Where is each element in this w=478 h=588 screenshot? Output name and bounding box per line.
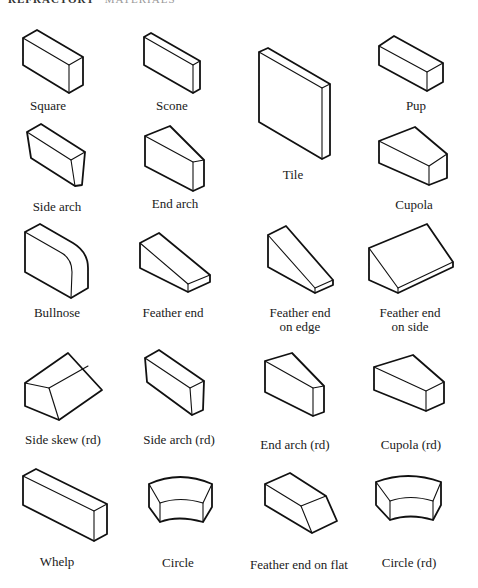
brick-edge bbox=[149, 484, 212, 503]
brick-outline bbox=[145, 126, 204, 191]
brick-scone-icon bbox=[144, 33, 200, 93]
label-line: Cupola (rd) bbox=[381, 438, 441, 452]
label-line: Side arch (rd) bbox=[143, 433, 214, 447]
brick-edge bbox=[25, 232, 72, 298]
brick-label-side-arch: Side arch bbox=[33, 200, 82, 214]
brick-label-circle-rd: Circle (rd) bbox=[382, 556, 437, 570]
brick-cupola-rd-icon bbox=[374, 355, 444, 411]
brick-label-scone: Scone bbox=[156, 99, 188, 113]
brick-label-side-arch-rd: Side arch (rd) bbox=[143, 433, 214, 447]
brick-circle-rd-icon bbox=[376, 476, 441, 520]
label-line: on side bbox=[379, 320, 440, 334]
brick-label-feather-end-on-flat: Feather end on flat bbox=[250, 558, 348, 572]
label-line: Feather end on flat bbox=[250, 558, 348, 572]
label-line: Square bbox=[30, 99, 66, 113]
brick-label-bullnose: Bullnose bbox=[34, 306, 80, 320]
brick-label-side-skew-rd: Side skew (rd) bbox=[25, 433, 101, 447]
brick-outline bbox=[369, 224, 453, 293]
brick-outline bbox=[259, 48, 330, 159]
label-line: Cupola bbox=[395, 198, 433, 212]
brick-feather-end-icon bbox=[140, 233, 210, 292]
brick-bullnose-icon bbox=[25, 224, 88, 298]
brick-label-end-arch-rd: End arch (rd) bbox=[260, 438, 329, 452]
label-line: Tile bbox=[283, 168, 303, 182]
brick-square-icon bbox=[23, 30, 83, 93]
label-line: Pup bbox=[406, 99, 426, 113]
brick-edge bbox=[376, 482, 441, 501]
brick-outline bbox=[268, 226, 333, 293]
brick-edge bbox=[259, 52, 330, 88]
brick-outline bbox=[25, 353, 102, 420]
brick-edge bbox=[379, 46, 443, 72]
brick-pup-icon bbox=[379, 36, 443, 91]
brick-edge bbox=[369, 248, 453, 288]
brick-edge bbox=[265, 361, 324, 388]
brick-label-cupola: Cupola bbox=[395, 198, 433, 212]
brick-shapes-diagram bbox=[0, 0, 478, 588]
label-line: Whelp bbox=[40, 555, 75, 569]
brick-edge bbox=[23, 476, 107, 511]
brick-outline bbox=[140, 233, 210, 292]
brick-edge bbox=[190, 388, 192, 415]
brick-edge bbox=[265, 484, 326, 506]
brick-label-feather-end-on-edge: Feather endon edge bbox=[269, 306, 330, 334]
brick-edge bbox=[140, 243, 210, 284]
label-line: Bullnose bbox=[34, 306, 80, 320]
brick-side-arch-rd-icon bbox=[145, 350, 204, 415]
label-line: on edge bbox=[269, 320, 330, 334]
brick-side-arch-icon bbox=[27, 124, 85, 186]
brick-cupola-icon bbox=[379, 127, 447, 185]
brick-feather-end-on-edge-icon bbox=[268, 226, 333, 293]
brick-label-tile: Tile bbox=[283, 168, 303, 182]
brick-edge bbox=[145, 358, 204, 388]
brick-outline bbox=[25, 224, 88, 298]
brick-end-arch-icon bbox=[145, 126, 204, 191]
label-line: Feather end bbox=[269, 306, 330, 320]
label-line: Side skew (rd) bbox=[25, 433, 101, 447]
brick-circle-icon bbox=[149, 477, 212, 522]
brick-outline bbox=[27, 124, 85, 186]
brick-edge bbox=[374, 367, 444, 391]
brick-outline bbox=[379, 127, 447, 185]
brick-label-whelp: Whelp bbox=[40, 555, 75, 569]
brick-outline bbox=[23, 30, 83, 93]
brick-label-cupola-rd: Cupola (rd) bbox=[381, 438, 441, 452]
brick-feather-end-on-flat-icon bbox=[265, 473, 337, 533]
brick-edge bbox=[49, 388, 59, 420]
brick-edge bbox=[71, 160, 75, 186]
label-line: Feather end bbox=[142, 306, 203, 320]
label-line: Scone bbox=[156, 99, 188, 113]
brick-edge bbox=[144, 37, 200, 65]
label-line: End arch bbox=[152, 197, 199, 211]
label-line: Feather end bbox=[379, 306, 440, 320]
brick-label-square: Square bbox=[30, 99, 66, 113]
label-line: End arch (rd) bbox=[260, 438, 329, 452]
brick-tile-icon bbox=[259, 48, 330, 159]
brick-outline bbox=[265, 353, 324, 416]
brick-outline bbox=[265, 473, 337, 533]
brick-label-feather-end-on-side: Feather endon side bbox=[379, 306, 440, 334]
label-line: Circle bbox=[162, 556, 194, 570]
brick-side-skew-rd-icon bbox=[25, 353, 102, 420]
brick-label-circle: Circle bbox=[162, 556, 194, 570]
brick-label-end-arch: End arch bbox=[152, 197, 199, 211]
brick-feather-end-on-side-icon bbox=[369, 224, 453, 293]
brick-end-arch-rd-icon bbox=[265, 353, 324, 416]
label-line: Circle (rd) bbox=[382, 556, 437, 570]
brick-outline bbox=[145, 350, 204, 415]
brick-label-feather-end: Feather end bbox=[142, 306, 203, 320]
brick-whelp-icon bbox=[23, 469, 107, 541]
brick-label-pup: Pup bbox=[406, 99, 426, 113]
label-line: Side arch bbox=[33, 200, 82, 214]
brick-edge bbox=[145, 136, 204, 162]
